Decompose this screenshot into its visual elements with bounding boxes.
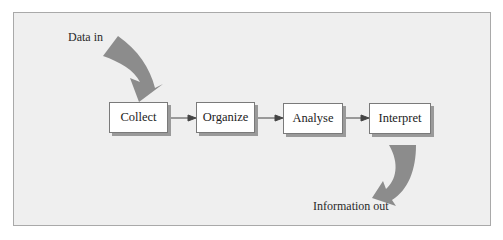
step-label: Interpret (378, 111, 421, 126)
step-organize: Organize (196, 102, 255, 133)
data-in-arrow-icon (103, 36, 163, 102)
step-label: Collect (120, 110, 156, 125)
step-label: Organize (203, 110, 249, 125)
information-out-arrow-icon (372, 145, 416, 206)
data-in-label: Data in (68, 30, 103, 45)
step-collect: Collect (109, 102, 168, 133)
information-out-label: Information out (313, 199, 389, 214)
step-label: Analyse (293, 111, 334, 126)
step-interpret: Interpret (369, 103, 431, 134)
step-analyse: Analyse (283, 103, 343, 134)
